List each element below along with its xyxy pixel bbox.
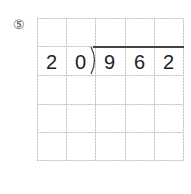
grid-line <box>154 18 155 161</box>
division-grid: 2 0 9 6 2 <box>37 18 184 161</box>
grid-line <box>95 18 96 161</box>
dividend-digit: 6 <box>125 52 154 72</box>
grid-line <box>183 18 184 161</box>
problem-number: ⑤ <box>13 18 25 31</box>
divisor-digit: 2 <box>37 52 66 72</box>
dividend-digit: 9 <box>95 52 124 72</box>
division-bracket-icon <box>88 46 98 75</box>
grid-line <box>37 18 38 161</box>
grid-line <box>37 160 184 161</box>
grid-line <box>37 104 184 105</box>
grid-line <box>37 75 184 76</box>
grid-line <box>37 18 184 19</box>
grid-line <box>37 132 184 133</box>
division-bar <box>93 46 184 48</box>
dividend-digit: 2 <box>154 52 183 72</box>
grid-line <box>125 18 126 161</box>
grid-line <box>66 18 67 161</box>
